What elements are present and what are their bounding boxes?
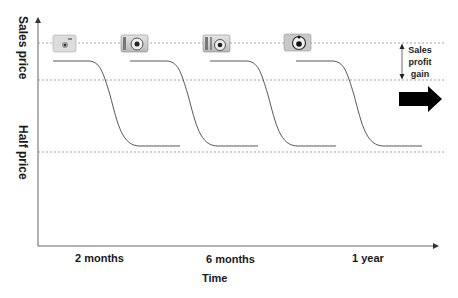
camera-icon [284, 34, 311, 51]
profit-gain-line-2: profit [406, 56, 434, 68]
profit-gain-line-1: Sales [406, 44, 434, 56]
profit-gain-label: Sales profit gain [406, 44, 434, 80]
y-label-half-price: Half price [16, 125, 30, 180]
x-tick-6-months: 6 months [206, 253, 255, 265]
price-curve-3 [210, 61, 336, 146]
camera-icon [53, 35, 76, 52]
right-arrow-icon [399, 86, 442, 112]
price-curve-2 [130, 61, 258, 146]
price-curves [53, 61, 422, 146]
y-label-sales-price: Sales price [16, 16, 30, 79]
x-tick-2-months: 2 months [75, 252, 124, 264]
profit-gain-line-3: gain [406, 68, 434, 80]
camera-icon [203, 35, 230, 52]
price-curve-1 [53, 61, 180, 146]
camera-icon [121, 35, 148, 52]
x-axis-title: Time [202, 272, 227, 284]
profit-gain-arrow [400, 44, 405, 80]
x-tick-1-year: 1 year [352, 252, 384, 264]
